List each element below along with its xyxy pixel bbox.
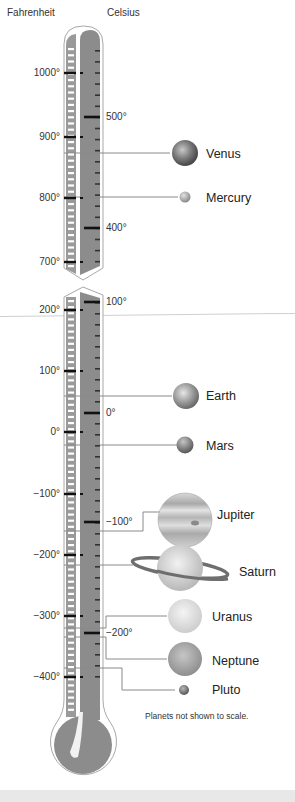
planet-label-neptune: Neptune	[212, 655, 259, 668]
planet-label-saturn: Saturn	[239, 566, 276, 579]
celsius-tick-label: −100°	[106, 517, 133, 527]
planet-label-venus: Venus	[206, 148, 241, 161]
planet-saturn-icon	[131, 545, 228, 591]
bottom-band	[0, 790, 295, 802]
celsius-tick-label: 100°	[106, 297, 127, 307]
celsius-tick-label: 0°	[106, 408, 116, 418]
fahrenheit-tick-label: 900°	[0, 132, 60, 142]
planet-mars-icon	[177, 437, 194, 454]
planet-uranus-icon	[168, 599, 202, 633]
fahrenheit-tick-label: −300°	[0, 611, 60, 621]
planet-earth-icon	[173, 383, 199, 409]
fahrenheit-tick-label: 700°	[0, 257, 60, 267]
planet-label-pluto: Pluto	[212, 684, 241, 697]
fahrenheit-tick-label: 800°	[0, 193, 60, 203]
fahrenheit-tick-label: 200°	[0, 305, 60, 315]
planet-label-mars: Mars	[206, 440, 234, 453]
fahrenheit-tick-label: 1000°	[0, 68, 60, 78]
celsius-tick-label: −200°	[106, 628, 133, 638]
celsius-scale-title: Celsius	[107, 7, 140, 18]
planet-jupiter-icon	[158, 493, 212, 547]
planet-label-uranus: Uranus	[212, 611, 252, 624]
fahrenheit-scale-title: Fahrenheit	[7, 7, 55, 18]
celsius-tick-label: 400°	[106, 223, 127, 233]
celsius-tick-label: 500°	[106, 112, 127, 122]
planet-venus-icon	[172, 140, 198, 166]
scale-footnote: Planets not shown to scale.	[145, 711, 248, 721]
planet-pluto-icon	[179, 685, 189, 695]
fahrenheit-tick-label: 0°	[0, 427, 60, 437]
fahrenheit-tick-label: 100°	[0, 366, 60, 376]
planet-label-mercury: Mercury	[206, 192, 251, 205]
fahrenheit-tick-label: −200°	[0, 550, 60, 560]
fahrenheit-tick-label: −400°	[0, 672, 60, 682]
planet-neptune-icon	[168, 642, 202, 676]
fahrenheit-tick-label: −100°	[0, 489, 60, 499]
planet-label-jupiter: Jupiter	[217, 509, 255, 522]
planet-label-earth: Earth	[206, 390, 236, 403]
planet-mercury-icon	[180, 192, 191, 203]
